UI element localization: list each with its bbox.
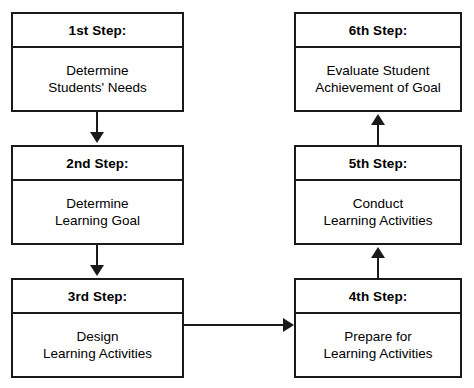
step2-header: 2nd Step: (13, 147, 182, 181)
connector-line (96, 112, 98, 134)
step5-header: 5th Step: (296, 147, 460, 181)
flowchart-node-step1: 1st Step: Determine Students' Needs (11, 12, 184, 112)
arrow-up-icon (371, 114, 385, 125)
connector-line (96, 245, 98, 267)
step5-body-line2: Learning Activities (324, 212, 433, 229)
step5-body: Conduct Learning Activities (296, 181, 460, 243)
flowchart-node-step5: 5th Step: Conduct Learning Activities (294, 145, 462, 245)
step4-body-line1: Prepare for (344, 328, 412, 345)
step1-header: 1st Step: (13, 14, 182, 48)
step6-header: 6th Step: (296, 14, 460, 48)
arrow-right-icon (283, 318, 294, 332)
step4-body-line2: Learning Activities (324, 345, 433, 362)
step5-body-line1: Conduct (353, 195, 403, 212)
step6-body: Evaluate Student Achievement of Goal (296, 48, 460, 110)
connector-line (377, 125, 379, 145)
step2-body: Determine Learning Goal (13, 181, 182, 243)
flowchart-node-step6: 6th Step: Evaluate Student Achievement o… (294, 12, 462, 112)
instructional-design-flowchart: 1st Step: Determine Students' Needs 2nd … (0, 0, 474, 388)
connector-line (377, 258, 379, 278)
step6-body-line2: Achievement of Goal (315, 79, 440, 96)
step2-body-line1: Determine (66, 195, 128, 212)
arrow-down-icon (90, 265, 104, 276)
step1-body-line2: Students' Needs (48, 79, 147, 96)
step2-body-line2: Learning Goal (55, 212, 140, 229)
arrow-up-icon (371, 247, 385, 258)
step3-header: 3rd Step: (13, 280, 182, 314)
flowchart-node-step3: 3rd Step: Design Learning Activities (11, 278, 184, 378)
step3-body: Design Learning Activities (13, 314, 182, 376)
flowchart-node-step4: 4th Step: Prepare for Learning Activitie… (294, 278, 462, 378)
step3-body-line1: Design (76, 328, 118, 345)
arrow-down-icon (90, 132, 104, 143)
step3-body-line2: Learning Activities (43, 345, 152, 362)
flowchart-node-step2: 2nd Step: Determine Learning Goal (11, 145, 184, 245)
step1-body-line1: Determine (66, 62, 128, 79)
step1-body: Determine Students' Needs (13, 48, 182, 110)
step4-header: 4th Step: (296, 280, 460, 314)
step6-body-line1: Evaluate Student (327, 62, 430, 79)
step4-body: Prepare for Learning Activities (296, 314, 460, 376)
connector-line (184, 324, 284, 326)
